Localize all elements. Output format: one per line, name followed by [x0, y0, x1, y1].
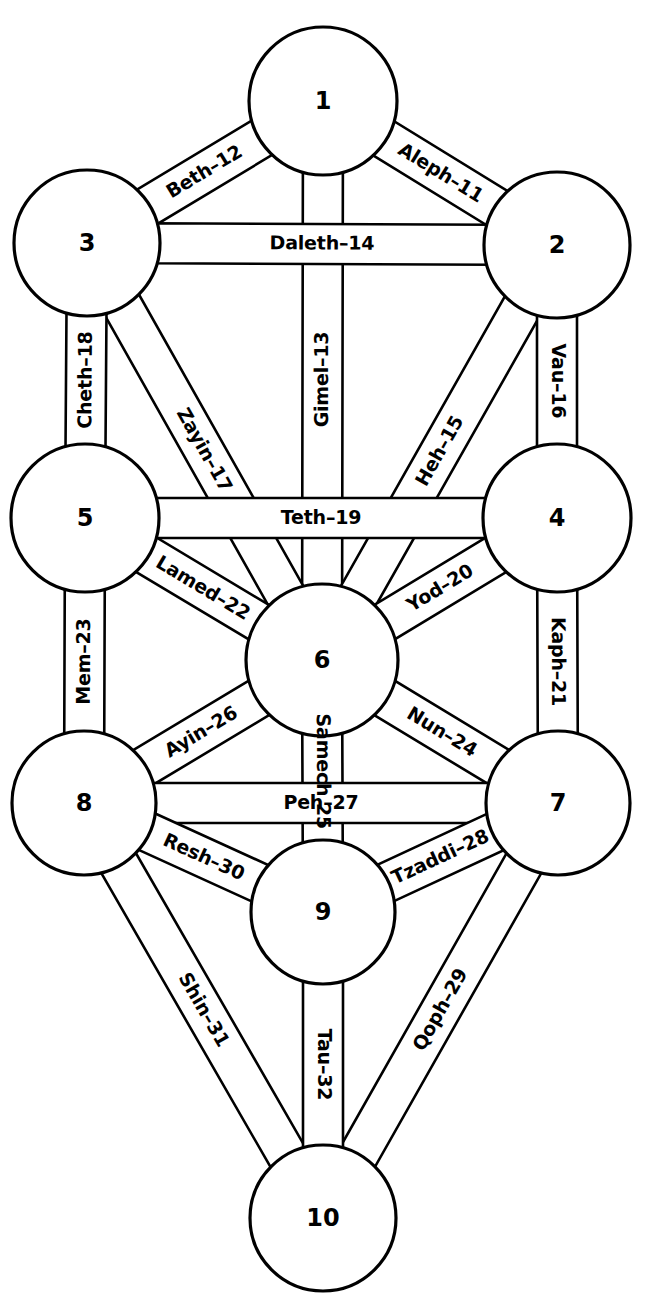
path-label-cheth-18: Cheth–18: [73, 331, 96, 428]
path-label-mem-23: Mem–23: [72, 618, 94, 704]
sephirah-label-10: 10: [306, 1204, 339, 1232]
path-label-teth-19: Teth–19: [281, 506, 361, 528]
path-label-samech: Samech: [313, 714, 335, 797]
sephirah-label-2: 2: [549, 231, 566, 259]
sephirah-label-7: 7: [550, 789, 567, 817]
sephirah-label-8: 8: [76, 789, 93, 817]
sephirah-label-9: 9: [315, 898, 332, 926]
path-label-kaph-21: Kaph–21: [548, 617, 570, 706]
tree-of-life-diagram: 12345678910 Aleph–11Beth–12Gimel–13Dalet…: [0, 0, 646, 1310]
path-label-vau-16: Vau–16: [548, 344, 570, 419]
tree-of-life-canvas: 12345678910 Aleph–11Beth–12Gimel–13Dalet…: [0, 0, 646, 1310]
sephirah-label-5: 5: [77, 504, 94, 532]
path-label-peh-27: Peh–27: [283, 791, 358, 813]
sephirah-label-1: 1: [315, 87, 332, 115]
path-label-daleth-14: Daleth–14: [270, 231, 375, 253]
sephirah-label-6: 6: [314, 646, 331, 674]
sephirah-label-4: 4: [549, 504, 566, 532]
path-label-gimel-13: Gimel–13: [310, 332, 332, 428]
sephirah-label-3: 3: [79, 229, 96, 257]
path-label-tau-32: Tau–32: [314, 1029, 336, 1101]
